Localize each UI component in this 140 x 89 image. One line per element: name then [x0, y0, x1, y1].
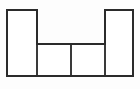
figure-container	[0, 0, 140, 89]
figure-canvas	[0, 0, 140, 89]
